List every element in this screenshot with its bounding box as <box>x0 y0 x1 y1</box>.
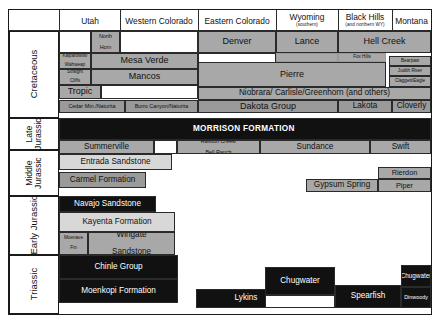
unit-label-lykins: Lykins <box>234 294 259 302</box>
unit-cell-moenkopi-formation: Moenkopi Formation <box>59 279 178 303</box>
period-label-cretaceous: Cretaceous <box>9 31 59 118</box>
unit-cell-hell-creek: Hell Creek <box>338 31 431 53</box>
unit-label-sundance: Sundance <box>296 143 335 151</box>
unit-cell-cloverly: Cloverly <box>392 100 431 113</box>
period-label-early-jurassic-text: Early Jurassic <box>29 196 39 255</box>
unit-label-lance: Lance <box>294 37 321 46</box>
unit-label-denver: Denver <box>221 37 252 46</box>
unit-cell-bearpaw: Bearpaw <box>389 56 431 66</box>
unit-label-moenkopi-formation: Moenkopi Formation <box>80 287 157 295</box>
unit-label-north-horn-line1: North <box>98 34 113 40</box>
column-header-western-colorado-label: Western Colorado <box>125 17 192 26</box>
unit-cell-north-horn: North Horn <box>91 31 120 53</box>
unit-label-cloverly: Cloverly <box>396 102 428 110</box>
column-header-utah-label: Utah <box>81 17 99 26</box>
unit-label-niobrara: Niobrara/ Carlisle/Greenhorn (and others… <box>238 89 391 97</box>
unit-label-cliffs: Cliffs <box>66 79 84 84</box>
unit-label-chinle-group: Chinle Group <box>93 263 143 271</box>
unit-label-bell-ranch: Bell Ranch <box>200 150 238 154</box>
unit-label-wingate-sandstone: Sandstone <box>111 248 152 255</box>
column-header-black-hills: Black Hills (and northern WY) <box>338 11 392 30</box>
unit-label-ralston-creek: Ralston Creek/ <box>200 140 238 144</box>
unit-label-mesa-verde: Mesa Verde <box>119 56 169 65</box>
unit-label-gypsum-spring: Gypsum Spring <box>313 181 371 189</box>
period-label-middle-jurassic: Middle Jurassic <box>9 150 59 196</box>
unit-label-dakota-group: Dakota Group <box>239 102 297 111</box>
unit-cell-chugwater-notch <box>265 295 335 308</box>
unit-cell-lance: Lance <box>276 31 338 53</box>
unit-cell-tropic-gap <box>101 85 198 99</box>
unit-cell-kayenta-formation: Kayenta Formation <box>59 212 175 232</box>
unit-label-judith-river: Judith River <box>397 69 423 74</box>
column-header-wyoming-sublabel: (southern) <box>296 23 318 28</box>
unit-cell-cedar-mtn-naturita: Cedar Mtn./Naturita <box>59 100 125 113</box>
column-header-montana-label: Montana <box>395 17 428 26</box>
period-label-cretaceous-text: Cretaceous <box>29 50 39 99</box>
unit-cell-claggett-eagle: Claggett/Eagle <box>389 76 431 87</box>
unit-cell-tropic: Tropic <box>59 85 101 99</box>
unit-cell-utah-blank <box>59 31 91 53</box>
stratigraphic-chart: Utah Western Colorado Eastern Colorado W… <box>0 0 439 324</box>
unit-cell-ralston-creek-bell-ranch: Ralston Creek/ Bell Ranch <box>177 140 260 154</box>
unit-cell-summerville: Summerville <box>59 140 154 154</box>
unit-cell-wingate-sandstone: Wingate Sandstone <box>88 232 175 255</box>
unit-cell-pierre-upper-left <box>276 53 338 62</box>
unit-cell-mancos: Mancos <box>91 69 198 85</box>
unit-label-tropic: Tropic <box>67 87 94 96</box>
unit-label-lakota: Lakota <box>352 102 379 110</box>
column-header-utah: Utah <box>60 12 120 30</box>
header-divider <box>276 10 277 31</box>
unit-label-swift: Swift <box>391 143 411 151</box>
unit-label-navajo-sandstone: Navajo Sandstone <box>73 200 142 208</box>
unit-cell-summerville-gap <box>154 140 177 154</box>
unit-label-hell-creek: Hell Creek <box>362 37 406 46</box>
unit-label-piper: Piper <box>395 182 414 189</box>
unit-cell-judith-river: Judith River <box>389 66 431 76</box>
unit-cell-chugwater-montana: Chugwater <box>401 265 431 287</box>
header-divider <box>392 10 393 31</box>
unit-label-moenave-fm: Fm <box>63 246 84 251</box>
unit-cell-sundance: Sundance <box>260 140 370 154</box>
unit-label-kayenta-formation: Kayenta Formation <box>81 218 152 226</box>
unit-cell-pierre: Pierre <box>198 62 386 87</box>
unit-cell-straight-cliffs: Straight Cliffs <box>59 69 91 85</box>
unit-cell-carmel-formation: Carmel Formation <box>59 172 146 188</box>
unit-label-pierre: Pierre <box>279 70 305 79</box>
unit-cell-western-colorado-blank <box>120 31 198 53</box>
unit-cell-fox-hills: Fox Hills <box>338 53 386 62</box>
unit-label-fox-hills: Fox Hills <box>352 55 372 60</box>
unit-label-burro-canyon-naturita: Burro Canyon/Naturita <box>134 104 190 110</box>
column-header-wyoming: Wyoming (southern) <box>276 11 338 30</box>
unit-cell-navajo-sandstone: Navajo Sandstone <box>59 196 156 212</box>
column-header-eastern-colorado: Eastern Colorado <box>198 12 276 30</box>
header-divider <box>120 10 121 31</box>
unit-cell-entrada-sandstone: Entrada Sandstone <box>59 154 172 170</box>
column-header-wyoming-label: Wyoming <box>290 13 325 22</box>
period-label-early-jurassic: Early Jurassic <box>9 196 59 255</box>
unit-label-chugwater-montana: Chugwater <box>401 273 431 279</box>
unit-cell-dinwoody: Dinwoody <box>401 287 431 308</box>
unit-cell-rierdon: Rierdon <box>378 167 431 179</box>
unit-cell-chinle-group: Chinle Group <box>59 255 178 279</box>
header-divider <box>59 10 60 31</box>
unit-label-kaiparowits: Kaiparowits/ <box>61 54 88 59</box>
column-header-montana: Montana <box>392 12 431 30</box>
unit-cell-kaiparowits-wahweap: Kaiparowits/ Wahweap <box>59 53 91 69</box>
unit-label-entrada-sandstone: Entrada Sandstone <box>79 158 151 166</box>
period-label-middle-jurassic-text: Middle Jurassic <box>25 157 43 189</box>
unit-cell-montana-blank-right <box>386 53 389 87</box>
unit-cell-niobrara: Niobrara/ Carlisle/Greenhorn (and others… <box>198 87 431 100</box>
unit-label-carmel-formation: Carmel Formation <box>69 176 137 184</box>
unit-label-cedar-mtn-naturita: Cedar Mtn./Naturita <box>67 104 116 110</box>
unit-cell-denver: Denver <box>198 31 276 53</box>
header-divider <box>198 10 199 31</box>
period-label-triassic-text: Triassic <box>29 268 39 300</box>
column-header-eastern-colorado-label: Eastern Colorado <box>204 17 269 26</box>
unit-cell-dakota-group: Dakota Group <box>198 100 338 113</box>
unit-label-straight: Straight <box>66 70 84 75</box>
unit-cell-chugwater: Chugwater <box>265 267 335 295</box>
unit-label-wingate: Wingate <box>111 232 152 239</box>
unit-label-morrison-formation: MORRISON FORMATION <box>192 125 296 133</box>
unit-label-rierdon: Rierdon <box>391 169 419 176</box>
unit-label-spearfish: Spearfish <box>350 292 387 300</box>
